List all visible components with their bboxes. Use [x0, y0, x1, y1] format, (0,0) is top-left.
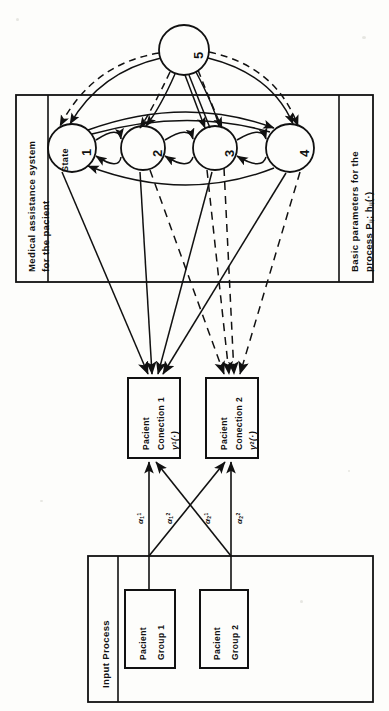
- connection-1-line2: Conection 1: [156, 397, 167, 450]
- group-2-line2-text: Group 2: [230, 625, 240, 660]
- flow-label-alpha-1-2-base: α: [203, 519, 212, 524]
- connection-2-line1-text: Pacient: [219, 417, 229, 450]
- state-node-1-text: 1: [79, 148, 94, 156]
- flow-label-alpha-2-2-sup: 2: [236, 512, 241, 515]
- flow-label-alpha-1-1-sub: 1: [140, 515, 145, 518]
- scan-speck: [16, 18, 19, 21]
- flow-label-alpha-2-1-base: α: [165, 519, 174, 524]
- flow-label-alpha-2-2: α22: [235, 512, 245, 524]
- scan-speck: [40, 500, 43, 502]
- flow-label-alpha-1-1-sup: 1: [137, 512, 142, 515]
- group-2-line1: Pacient: [212, 627, 223, 660]
- process-mid: ; h: [363, 206, 374, 219]
- flow-label-alpha-1-2: α21: [203, 512, 213, 524]
- upper-frame-left-title-2: for the pacient: [40, 201, 52, 272]
- state-node-1-label: 1: [79, 148, 95, 156]
- connection-1-symbol-tail: (·): [170, 431, 180, 441]
- connection-1-line1: Pacient: [141, 417, 152, 450]
- group-2-line2: Group 2: [230, 625, 241, 660]
- upper-frame-left-title-line1: Medical assistance system: [26, 141, 37, 272]
- figure-canvas: Medical assistance system for the pacien…: [0, 0, 389, 711]
- flow-label-alpha-2-1-sub: 1: [169, 515, 174, 518]
- flow-label-alpha-1-2-sub: 2: [207, 515, 212, 518]
- group-to-connection-links: [149, 462, 231, 556]
- connection-2-line1: Pacient: [219, 417, 230, 450]
- state-node-5-label: 5: [191, 51, 207, 59]
- group-1-line2-text: Group 1: [156, 625, 166, 660]
- flow-label-alpha-2-1-sup: 2: [166, 512, 171, 515]
- group-1-line1-text: Pacient: [138, 627, 148, 660]
- flow-label-alpha-1-1-base: α: [136, 519, 145, 524]
- lower-frame-title-text: Input Process: [100, 620, 111, 688]
- state-node-3-label: 3: [222, 149, 238, 157]
- connection-1-symbol-sup: 1: [171, 441, 177, 445]
- group-2-line1-text: Pacient: [212, 627, 222, 660]
- flow-label-alpha-2-1: α12: [165, 512, 175, 524]
- fan-to-connection-2: [150, 168, 300, 374]
- long-transition-arcs: [88, 112, 274, 185]
- lower-frame-title: Input Process: [100, 620, 112, 688]
- upper-frame-right-title-line1: Basic parameters for the: [349, 151, 360, 272]
- node5-dashed-links: [60, 52, 298, 128]
- connection-2-line2-text: Conection 2: [234, 397, 244, 450]
- flow-label-alpha-1-2-sup: 1: [204, 512, 209, 515]
- state-node-4-text: 4: [297, 149, 312, 157]
- state-word-text: State: [60, 148, 70, 172]
- connection-2-line2: Conection 2: [234, 397, 245, 450]
- node5-solid-links: [70, 58, 293, 128]
- group-1-line2: Group 1: [156, 625, 167, 660]
- connection-1-symbol: γ1(·): [170, 431, 181, 450]
- connection-2-symbol-tail: (·): [248, 431, 258, 441]
- state-word-label: State: [60, 148, 71, 172]
- connection-1-symbol-base: γ: [170, 445, 180, 450]
- upper-frame-right-title-2: process Pij; hij(·): [363, 191, 376, 272]
- group-1-line1: Pacient: [138, 627, 149, 660]
- group-feeder-stubs: [149, 556, 231, 590]
- state-node-4-label: 4: [297, 149, 313, 157]
- flow-label-alpha-2-2-base: α: [235, 519, 244, 524]
- process-sub-ij-1: ij: [368, 219, 374, 223]
- connection-2-symbol-base: γ: [248, 445, 258, 450]
- state-node-3-text: 3: [222, 149, 237, 157]
- scan-speck: [300, 600, 303, 603]
- state-node-5-text: 5: [191, 51, 206, 59]
- flow-label-alpha-1-1: α11: [136, 512, 146, 524]
- diagram-vector-layer: [0, 0, 389, 711]
- fan-to-connection-1: [62, 172, 286, 374]
- scan-speck: [362, 36, 366, 39]
- upper-frame-left-title: Medical assistance system: [26, 141, 38, 272]
- process-prefix: process P: [363, 223, 374, 272]
- state-node-2-label: 2: [150, 149, 166, 157]
- upper-frame-left-title-line2: for the pacient: [40, 201, 51, 272]
- connection-2-symbol-sup: 2: [249, 441, 255, 445]
- scan-speck: [348, 470, 350, 472]
- process-tail: (·): [363, 191, 374, 202]
- flow-label-alpha-2-2-sub: 2: [239, 515, 244, 518]
- upper-frame-right-title: Basic parameters for the: [349, 151, 361, 272]
- connection-2-symbol: γ2(·): [248, 431, 259, 450]
- state-node-2-text: 2: [150, 149, 165, 157]
- connection-1-line2-text: Conection 1: [156, 397, 166, 450]
- process-sub-ij-2: ij: [368, 202, 374, 206]
- connection-1-line1-text: Pacient: [141, 417, 151, 450]
